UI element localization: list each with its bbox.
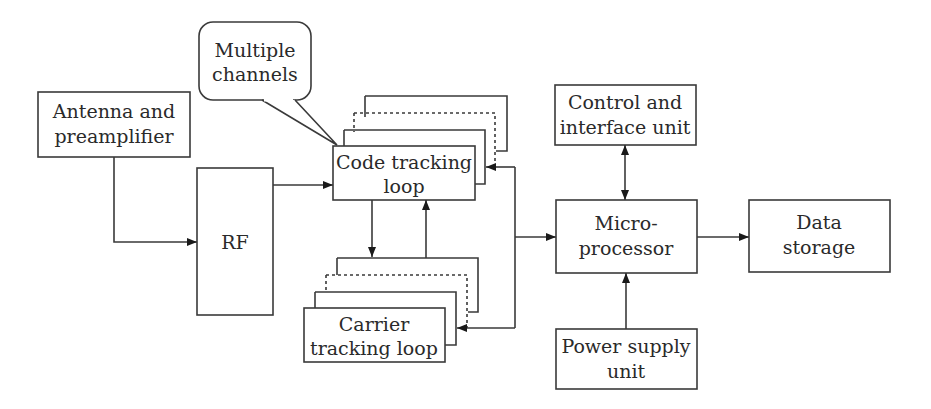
code-tracking-loop-stack: Code tracking loop (333, 96, 507, 200)
microprocessor-block: Micro- processor (556, 200, 697, 273)
power-line1: Power supply (561, 335, 690, 357)
control-line2: interface unit (560, 116, 691, 138)
storage-line1: Data (796, 211, 842, 233)
control-interface-block: Control and interface unit (555, 85, 696, 145)
micro-line1: Micro- (594, 212, 657, 234)
rf-block: RF (197, 168, 273, 315)
micro-line2: processor (579, 237, 675, 259)
callout-line1: Multiple (215, 39, 296, 61)
rf-label: RF (221, 231, 249, 253)
power-line2: unit (607, 360, 646, 382)
data-storage-block: Data storage (749, 200, 890, 272)
control-line1: Control and (568, 91, 682, 113)
gps-receiver-block-diagram: Multiple channels Antenna and preamplifi… (0, 0, 931, 409)
code-loop-line1: Code tracking (336, 151, 472, 173)
carrier-loop-line2: tracking loop (310, 337, 438, 359)
antenna-to-rf-arrow (114, 157, 197, 242)
storage-line2: storage (783, 236, 856, 258)
power-supply-block: Power supply unit (556, 329, 697, 389)
antenna-line2: preamplifier (54, 125, 174, 147)
code-loop-line2: loop (383, 175, 424, 197)
carrier-tracking-loop-stack: Carrier tracking loop (304, 258, 478, 362)
carrier-loop-line1: Carrier (339, 313, 410, 335)
callout-line2: channels (212, 63, 298, 85)
multiple-channels-callout: Multiple channels (199, 22, 337, 145)
antenna-line1: Antenna and (52, 100, 175, 122)
antenna-preamplifier-block: Antenna and preamplifier (38, 92, 190, 157)
